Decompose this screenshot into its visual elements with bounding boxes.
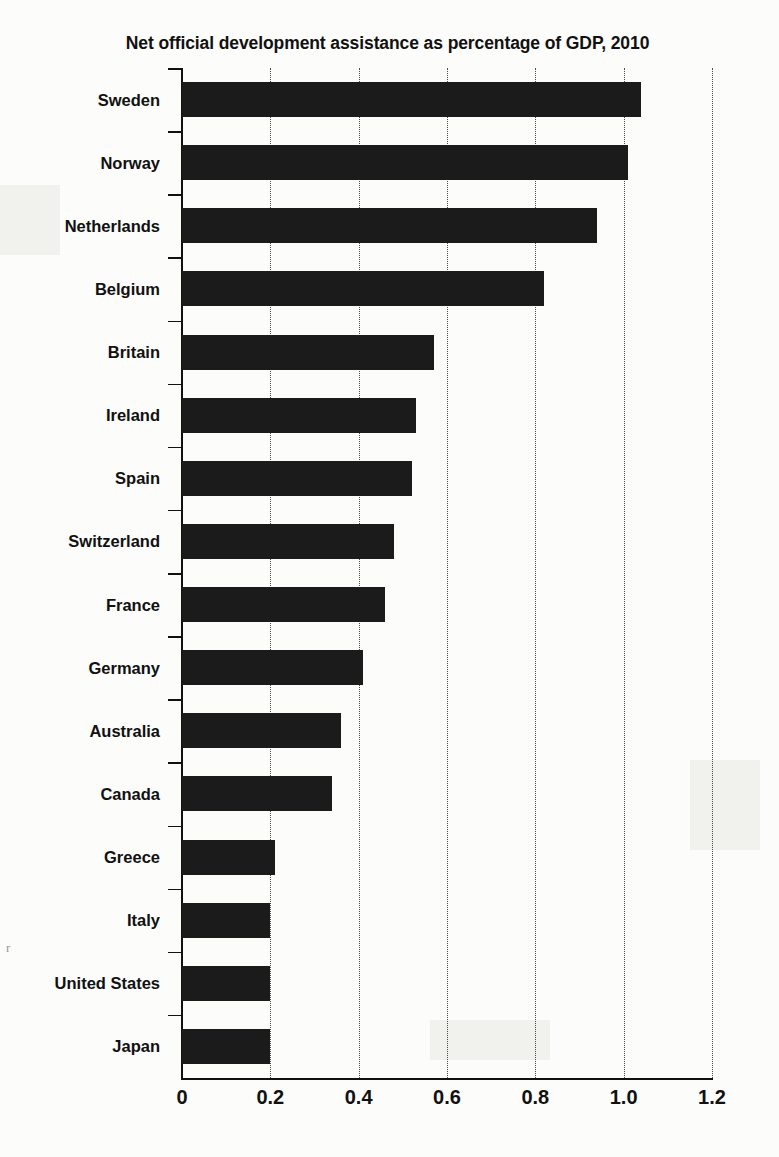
category-label-switzerland: Switzerland bbox=[68, 533, 160, 550]
x-tick-label-0: 0 bbox=[176, 1086, 187, 1109]
category-label-canada: Canada bbox=[100, 786, 160, 803]
bar-row: Switzerland bbox=[182, 510, 712, 573]
category-label-belgium: Belgium bbox=[95, 281, 160, 298]
category-label-sweden: Sweden bbox=[98, 92, 160, 109]
bar-row: Belgium bbox=[182, 257, 712, 320]
bar-row: Australia bbox=[182, 699, 712, 762]
bar-row: France bbox=[182, 573, 712, 636]
y-axis-tick bbox=[168, 636, 181, 638]
category-label-ireland: Ireland bbox=[106, 407, 160, 424]
bar-row: Spain bbox=[182, 447, 712, 510]
page-margin-mark: r bbox=[6, 940, 10, 956]
bar-united-states bbox=[182, 966, 270, 1001]
plot-area: SwedenNorwayNetherlandsBelgiumBritainIre… bbox=[182, 68, 712, 1078]
bar-row: Italy bbox=[182, 889, 712, 952]
y-axis-tick bbox=[168, 68, 181, 70]
bar-row: Netherlands bbox=[182, 194, 712, 257]
category-label-germany: Germany bbox=[88, 660, 160, 677]
y-axis-tick bbox=[168, 952, 181, 954]
bar-row: Greece bbox=[182, 826, 712, 889]
category-label-australia: Australia bbox=[89, 723, 160, 740]
category-label-netherlands: Netherlands bbox=[65, 218, 160, 235]
y-axis-tick bbox=[168, 889, 181, 891]
bar-switzerland bbox=[182, 524, 394, 559]
bar-australia bbox=[182, 713, 341, 748]
category-label-greece: Greece bbox=[104, 849, 160, 866]
y-axis-tick bbox=[168, 131, 181, 133]
y-axis-tick bbox=[168, 447, 181, 449]
category-label-france: France bbox=[106, 597, 160, 614]
bar-row: Japan bbox=[182, 1015, 712, 1078]
bar-spain bbox=[182, 461, 412, 496]
category-label-united-states: United States bbox=[55, 975, 160, 992]
y-axis-tick bbox=[168, 194, 181, 196]
y-axis-tick bbox=[168, 257, 181, 259]
x-tick-label-0.6: 0.6 bbox=[433, 1086, 461, 1109]
bar-sweden bbox=[182, 82, 641, 117]
bar-ireland bbox=[182, 398, 416, 433]
bar-greece bbox=[182, 840, 275, 875]
bar-row: United States bbox=[182, 952, 712, 1015]
chart-title: Net official development assistance as p… bbox=[0, 33, 779, 54]
y-axis-tick bbox=[168, 573, 181, 575]
x-tick-label-0.2: 0.2 bbox=[256, 1086, 284, 1109]
category-label-spain: Spain bbox=[115, 470, 160, 487]
chart-container: r Net official development assistance as… bbox=[0, 0, 779, 1157]
x-tick-label-0.4: 0.4 bbox=[345, 1086, 373, 1109]
scan-artifact bbox=[0, 185, 60, 255]
bar-france bbox=[182, 587, 385, 622]
bar-row: Norway bbox=[182, 131, 712, 194]
gridline-1.2 bbox=[712, 68, 713, 1078]
category-label-japan: Japan bbox=[112, 1038, 160, 1055]
bar-britain bbox=[182, 335, 434, 370]
x-tick-label-1.0: 1.0 bbox=[610, 1086, 638, 1109]
bar-row: Britain bbox=[182, 321, 712, 384]
y-axis-tick bbox=[168, 384, 181, 386]
bar-italy bbox=[182, 903, 270, 938]
x-axis-line bbox=[181, 1078, 713, 1080]
y-axis-tick bbox=[168, 1015, 181, 1017]
x-tick-label-0.8: 0.8 bbox=[521, 1086, 549, 1109]
y-axis-tick bbox=[168, 826, 181, 828]
bar-japan bbox=[182, 1029, 270, 1064]
bar-row: Germany bbox=[182, 636, 712, 699]
bar-row: Canada bbox=[182, 762, 712, 825]
bar-germany bbox=[182, 650, 363, 685]
bar-belgium bbox=[182, 271, 544, 306]
category-label-italy: Italy bbox=[127, 912, 160, 929]
bar-row: Sweden bbox=[182, 68, 712, 131]
bar-row: Ireland bbox=[182, 384, 712, 447]
category-label-norway: Norway bbox=[100, 155, 160, 172]
bar-norway bbox=[182, 145, 628, 180]
y-axis-tick bbox=[168, 762, 181, 764]
bar-netherlands bbox=[182, 208, 597, 243]
y-axis-tick bbox=[168, 510, 181, 512]
category-label-britain: Britain bbox=[108, 344, 160, 361]
y-axis-tick bbox=[168, 321, 181, 323]
bar-canada bbox=[182, 776, 332, 811]
x-tick-label-1.2: 1.2 bbox=[698, 1086, 726, 1109]
y-axis-tick bbox=[168, 699, 181, 701]
